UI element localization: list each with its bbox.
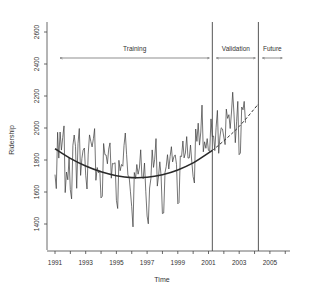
y-tick-label: 1800: [33, 152, 40, 167]
partition-label-validation: Validation: [222, 45, 250, 52]
x-tick-label: 1991: [48, 259, 63, 266]
x-tick-label: 1993: [78, 259, 93, 266]
x-tick-label: 1999: [171, 259, 186, 266]
ridership-chart: 1400160018002000220024002600 19911993199…: [0, 0, 311, 295]
y-tick-label: 1600: [33, 184, 40, 199]
plot-series: [55, 92, 258, 227]
y-tick-label: 2600: [33, 24, 40, 39]
x-tick-label: 2005: [263, 259, 278, 266]
x-axis-label: Time: [154, 276, 169, 283]
series-solid-thick: [55, 149, 212, 178]
y-tick-label: 2200: [33, 88, 40, 103]
x-tick-label: 2003: [232, 259, 247, 266]
y-tick-label: 2400: [33, 56, 40, 71]
y-axis: 1400160018002000220024002600: [33, 22, 47, 250]
y-tick-label: 2000: [33, 120, 40, 135]
x-tick-label: 2001: [201, 259, 216, 266]
x-axis: 19911993199519971999200120032005: [47, 251, 290, 266]
partition-label-training: Training: [123, 45, 147, 53]
series-solid-thin: [55, 92, 246, 227]
x-tick-label: 1997: [140, 259, 155, 266]
partition-label-future: Future: [263, 45, 282, 52]
x-tick-label: 1995: [109, 259, 124, 266]
y-tick-label: 1400: [33, 216, 40, 231]
y-axis-label: Ridership: [8, 125, 16, 155]
